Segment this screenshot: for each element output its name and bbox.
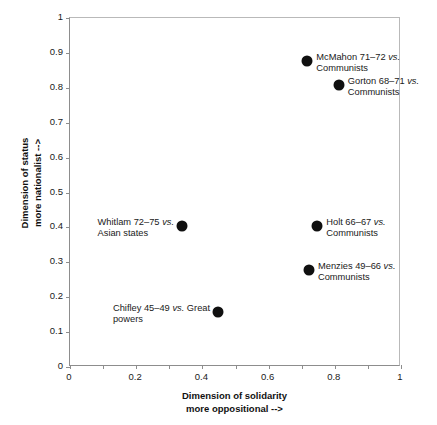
data-point-marker[interactable] bbox=[212, 306, 223, 317]
data-point-label-line1: Menzies 49–66 vs. bbox=[318, 261, 396, 272]
data-point-marker[interactable] bbox=[312, 221, 323, 232]
data-point-label: Holt 66–67 vs.Communists bbox=[326, 217, 385, 239]
data-point-label-line2: Communists bbox=[326, 228, 385, 239]
data-point-label: Gorton 68–71 vs.Communists bbox=[348, 76, 419, 98]
y-axis-title: Dimension of status more nationalist --> bbox=[18, 73, 44, 293]
x-axis-title: Dimension of solidarity more oppositiona… bbox=[69, 389, 400, 415]
data-point-label: Whitlam 72–75 vs.Asian states bbox=[98, 217, 174, 239]
vs-italic: vs. bbox=[162, 217, 174, 227]
data-point-label-line2: Communists bbox=[348, 87, 419, 98]
vs-italic: vs. bbox=[407, 76, 419, 86]
data-point-layer: McMahon 71–72 vs.CommunistsGorton 68–71 … bbox=[0, 0, 437, 425]
x-axis-title-line1: Dimension of solidarity bbox=[69, 389, 400, 402]
data-point-marker[interactable] bbox=[176, 221, 187, 232]
vs-italic: vs. bbox=[374, 217, 386, 227]
data-point-label-line1: Whitlam 72–75 vs. bbox=[98, 217, 174, 228]
vs-italic: vs. bbox=[388, 52, 400, 62]
data-point-marker[interactable] bbox=[302, 55, 313, 66]
data-point-label-line1: Chifley 45–49 vs. Great bbox=[113, 303, 210, 314]
y-axis-title-line1: Dimension of status bbox=[18, 73, 31, 293]
data-point-label: Chifley 45–49 vs. Greatpowers bbox=[113, 303, 210, 325]
data-point-label-line1: Holt 66–67 vs. bbox=[326, 217, 385, 228]
data-point-label-line2: Communists bbox=[318, 272, 396, 283]
x-axis-title-line2: more oppositional --> bbox=[69, 402, 400, 415]
vs-italic: vs. bbox=[384, 261, 396, 271]
scatter-chart: 00.10.20.30.40.50.60.70.80.91 00.20.40.6… bbox=[0, 0, 437, 425]
data-point-label-line2: Communists bbox=[316, 63, 400, 74]
data-point-label: Menzies 49–66 vs.Communists bbox=[318, 261, 396, 283]
y-axis-title-line2: more nationalist --> bbox=[31, 73, 44, 293]
data-point-marker[interactable] bbox=[333, 80, 344, 91]
data-point-label-line2: powers bbox=[113, 314, 210, 325]
data-point-label: McMahon 71–72 vs.Communists bbox=[316, 52, 400, 74]
data-point-label-line1: McMahon 71–72 vs. bbox=[316, 52, 400, 63]
data-point-label-line2: Asian states bbox=[98, 228, 174, 239]
data-point-label-line1: Gorton 68–71 vs. bbox=[348, 76, 419, 87]
vs-italic: vs. bbox=[172, 303, 184, 313]
data-point-marker[interactable] bbox=[303, 265, 314, 276]
